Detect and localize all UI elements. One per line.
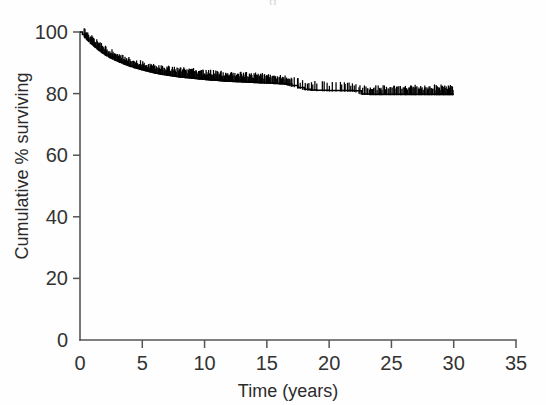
x-tick-label: 30 xyxy=(443,352,465,374)
x-axis-title: Time (years) xyxy=(238,381,338,401)
x-axis-ticks xyxy=(142,340,516,348)
x-tick-label: 5 xyxy=(137,352,148,374)
y-tick-label: 0 xyxy=(57,329,68,351)
x-tick-label: 20 xyxy=(318,352,340,374)
x-axis-tick-labels: 05101520253035 xyxy=(74,352,527,374)
y-tick-label: 60 xyxy=(46,144,68,166)
x-tick-label: 10 xyxy=(193,352,215,374)
y-tick-label: 80 xyxy=(46,83,68,105)
y-tick-label: 20 xyxy=(46,267,68,289)
x-tick-label: 0 xyxy=(74,352,85,374)
x-tick-label: 25 xyxy=(380,352,402,374)
censoring-tick-marks xyxy=(84,28,453,95)
y-axis-tick-labels: 020406080100 xyxy=(35,21,68,351)
y-axis-title: Cumulative % surviving xyxy=(12,72,32,259)
x-tick-label: 15 xyxy=(256,352,278,374)
figure-container: g 020406080100 05101520253035 Time (year… xyxy=(0,0,546,405)
y-axis-ticks xyxy=(73,32,80,278)
x-tick-label: 35 xyxy=(505,352,527,374)
y-tick-label: 40 xyxy=(46,206,68,228)
survival-chart: 020406080100 05101520253035 Time (years)… xyxy=(0,0,546,405)
y-tick-label: 100 xyxy=(35,21,68,43)
